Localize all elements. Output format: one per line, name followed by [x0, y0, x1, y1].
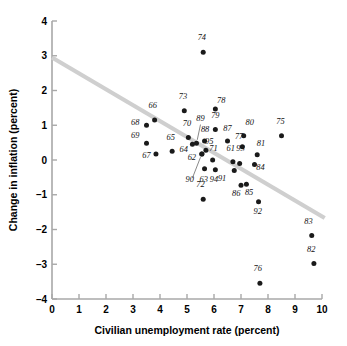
x-tick-label: 7 [238, 304, 244, 315]
data-point [311, 261, 316, 266]
data-point [144, 141, 149, 146]
data-point-label: 73 [179, 92, 187, 101]
data-point-label: 84 [256, 163, 264, 172]
data-point [199, 152, 204, 157]
x-tick-label: 3 [130, 304, 136, 315]
chart-canvas: 01234567891043210–1–2–3–4 61626364656667… [0, 0, 347, 346]
data-point-label: 78 [217, 96, 226, 105]
data-point-label: 65 [167, 133, 175, 142]
data-point-label: 89 [196, 114, 205, 123]
data-point [255, 152, 260, 157]
data-point-label: 76 [254, 264, 263, 273]
data-point-label: 75 [276, 117, 284, 126]
x-tick-label: 6 [211, 304, 217, 315]
data-point-label: 95 [205, 137, 213, 146]
data-point [237, 161, 242, 166]
y-tick-label: 0 [41, 155, 47, 166]
data-point [170, 149, 175, 154]
point-labels: 6162636465666768697071727374757677787980… [131, 33, 315, 273]
y-tick-label: 1 [41, 120, 47, 131]
data-point-label: 67 [142, 151, 151, 160]
data-point [213, 127, 218, 132]
data-point [239, 183, 244, 188]
data-point-label: 92 [254, 207, 262, 216]
x-tick-label: 0 [49, 304, 55, 315]
x-tick-label: 4 [157, 304, 163, 315]
data-point-label: 91 [218, 174, 226, 183]
data-point-label: 77 [235, 132, 244, 141]
data-point-label: 86 [232, 189, 241, 198]
data-point [194, 141, 199, 146]
y-tick-label: 4 [41, 16, 47, 27]
x-axis-title: Civilian unemployment rate (percent) [95, 324, 280, 336]
x-tick-label: 1 [76, 304, 82, 315]
data-point-label: 74 [198, 33, 206, 42]
data-point-label: 72 [196, 180, 204, 189]
data-point-label: 90 [186, 175, 195, 184]
y-tick-label: –4 [36, 294, 48, 305]
data-point-label: 62 [188, 153, 196, 162]
x-tick-label: 9 [292, 304, 298, 315]
data-point-label: 81 [257, 139, 265, 148]
x-tick-label: 8 [265, 304, 271, 315]
y-tick-label: –2 [36, 224, 48, 235]
y-tick-label: 3 [41, 50, 47, 61]
data-point [230, 159, 235, 164]
data-point-label: 93 [236, 144, 244, 153]
data-point [213, 167, 218, 172]
scatter-chart-figure: 01234567891043210–1–2–3–4 61626364656667… [0, 0, 347, 346]
data-point-label: 66 [149, 101, 158, 110]
y-tick-label: –3 [36, 259, 48, 270]
data-points [144, 50, 316, 286]
data-point-label: 94 [210, 175, 218, 184]
data-point [182, 108, 187, 113]
data-point [257, 281, 262, 286]
y-tick-label: 2 [41, 85, 47, 96]
data-point [232, 168, 237, 173]
data-point-label: 88 [201, 125, 210, 134]
data-point [210, 158, 215, 163]
data-point [256, 199, 261, 204]
data-point [202, 166, 207, 171]
data-point [153, 152, 158, 157]
x-tick-label: 10 [316, 304, 328, 315]
data-point [186, 135, 191, 140]
x-tick-label: 2 [103, 304, 109, 315]
y-tick-label: –1 [36, 189, 48, 200]
data-point [201, 50, 206, 55]
data-point-label: 64 [180, 145, 188, 154]
data-point-label: 68 [131, 118, 140, 127]
data-point-label: 61 [227, 144, 235, 153]
data-point [144, 123, 149, 128]
data-point [309, 233, 314, 238]
data-point-label: 87 [223, 124, 232, 133]
data-point [244, 182, 249, 187]
data-point-label: 69 [131, 131, 140, 140]
x-tick-label: 5 [184, 304, 190, 315]
y-axis-title: Change in inflation (percent) [7, 89, 19, 231]
data-point-label: 80 [245, 118, 254, 127]
data-point-label: 82 [307, 245, 315, 254]
data-point [201, 197, 206, 202]
data-point [279, 133, 284, 138]
axes: 01234567891043210–1–2–3–4 [36, 16, 328, 315]
data-point [203, 148, 208, 153]
data-point [152, 118, 157, 123]
data-point-label: 79 [211, 111, 220, 120]
label-leader-lines [192, 125, 200, 179]
data-point-label: 83 [304, 217, 312, 226]
data-point-label: 70 [183, 119, 192, 128]
data-point-label: 85 [245, 188, 253, 197]
